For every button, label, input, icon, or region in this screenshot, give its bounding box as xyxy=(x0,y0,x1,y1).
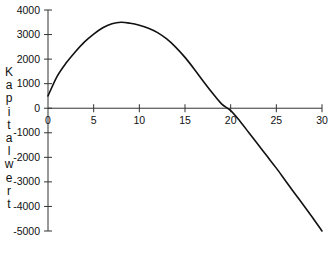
svg-text:i: i xyxy=(8,105,11,119)
x-axis: 051015202530 xyxy=(45,104,328,126)
svg-text:a: a xyxy=(6,131,13,145)
svg-text:t: t xyxy=(7,197,11,211)
y-tick-label: 3000 xyxy=(17,28,41,40)
svg-text:w: w xyxy=(4,157,14,171)
x-tick-label: 15 xyxy=(179,114,191,126)
x-tick-label: 30 xyxy=(316,114,328,126)
svg-text:K: K xyxy=(5,65,13,79)
svg-text:e: e xyxy=(6,171,13,185)
x-tick-label: 10 xyxy=(133,114,145,126)
svg-text:t: t xyxy=(7,118,11,132)
y-tick-label: -3000 xyxy=(13,175,40,187)
svg-text:r: r xyxy=(7,184,11,198)
y-tick-label: 4000 xyxy=(17,4,41,16)
y-tick-label: -1000 xyxy=(13,126,40,138)
chart: 40003000200010000-1000-2000-3000-4000-50… xyxy=(0,0,329,253)
x-tick-label: 5 xyxy=(91,114,97,126)
svg-text:p: p xyxy=(6,91,13,105)
y-tick-label: 1000 xyxy=(17,77,41,89)
y-tick-label: 2000 xyxy=(17,53,41,65)
y-tick-label: -4000 xyxy=(13,200,40,212)
series-line-kapitalwert xyxy=(48,22,322,231)
svg-text:a: a xyxy=(6,78,13,92)
x-tick-label: 25 xyxy=(270,114,282,126)
x-tick-label: 0 xyxy=(45,114,51,126)
y-axis-label: Kapitalwert xyxy=(4,65,14,211)
y-tick-label: -5000 xyxy=(13,225,40,237)
y-tick-label: -2000 xyxy=(13,151,40,163)
svg-text:l: l xyxy=(8,144,11,158)
y-tick-label: 0 xyxy=(34,102,40,114)
